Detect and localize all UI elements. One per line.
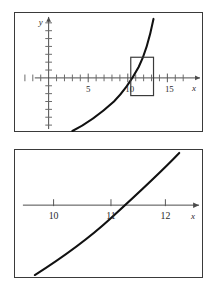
detail-plot-area: 10 11 12 x	[15, 150, 202, 277]
y-axis-arrow	[46, 17, 51, 22]
x-tick-label-5: 5	[86, 84, 91, 94]
overview-plot-svg: 5 10 15 x y	[15, 13, 202, 131]
x-axis-label: x	[191, 83, 196, 93]
x-tick-label-10: 10	[49, 210, 59, 221]
x-tick-label-12: 12	[160, 210, 170, 221]
x-tick-label-10: 10	[125, 84, 134, 94]
detail-plot-panel: 10 11 12 x	[14, 149, 203, 278]
x-axis-arrow	[193, 202, 199, 208]
detail-plot-svg: 10 11 12 x	[15, 150, 202, 277]
x-tick-label-15: 15	[165, 84, 174, 94]
exponential-curve	[72, 19, 153, 131]
x-tick-label-11: 11	[106, 210, 116, 221]
y-axis-label: y	[38, 17, 43, 27]
x-axis-arrow	[195, 76, 200, 81]
x-axis-label: x	[190, 211, 195, 221]
overview-plot-panel: 5 10 15 x y	[14, 12, 203, 132]
overview-plot-area: 5 10 15 x y	[15, 13, 202, 131]
